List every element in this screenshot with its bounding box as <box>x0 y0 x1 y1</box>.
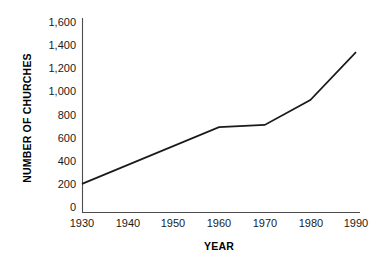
x-axis-title: YEAR <box>204 240 234 252</box>
x-tick-label: 1970 <box>253 217 277 229</box>
y-tick-label: 1,600 <box>48 16 76 28</box>
y-tick-label: 400 <box>58 155 76 167</box>
chart-axes <box>83 18 361 213</box>
x-tick-label: 1960 <box>207 217 231 229</box>
x-tick-label: 1990 <box>344 217 368 229</box>
line-chart-figure: 1,600 1,400 1,200 1,000 800 600 400 200 … <box>0 0 379 267</box>
y-tick-label: 200 <box>58 178 76 190</box>
y-tick-label: 800 <box>58 109 76 121</box>
series-line-number-of-churches <box>82 52 356 184</box>
chart-plot-area: 1,600 1,400 1,200 1,000 800 600 400 200 … <box>0 0 379 267</box>
y-tick-label: 1,000 <box>48 85 76 97</box>
x-tick-label: 1930 <box>70 217 94 229</box>
y-tick-label: 0 <box>70 201 76 213</box>
x-tick-label: 1950 <box>161 217 185 229</box>
y-axis-title: NUMBER OF CHURCHES <box>21 53 33 183</box>
y-tick-label: 1,200 <box>48 62 76 74</box>
x-tick-label: 1980 <box>299 217 323 229</box>
y-tick-label: 600 <box>58 132 76 144</box>
y-tick-label: 1,400 <box>48 39 76 51</box>
x-tick-label: 1940 <box>116 217 140 229</box>
